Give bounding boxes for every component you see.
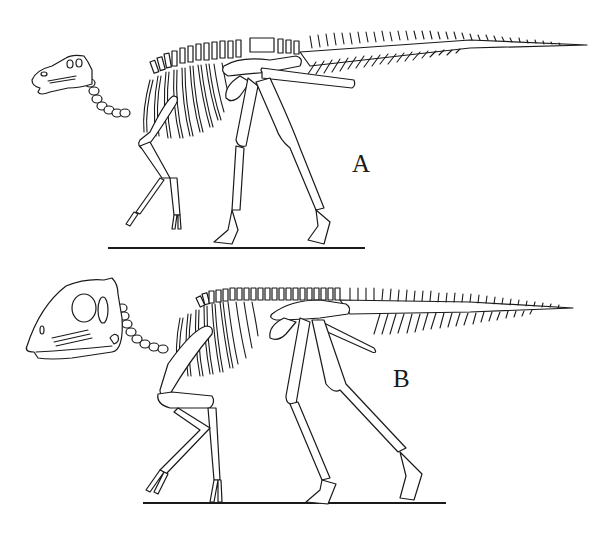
forelimb-b	[146, 326, 222, 502]
panel-label-a: A	[352, 151, 370, 176]
hindlimb-b	[286, 318, 422, 504]
neck-b	[117, 304, 168, 353]
skeleton-b-drawing	[0, 0, 611, 533]
skeletal-figure: A B	[0, 0, 611, 533]
tail-b	[340, 288, 573, 334]
panel-label-b: B	[393, 366, 410, 391]
skull-b	[26, 278, 122, 359]
